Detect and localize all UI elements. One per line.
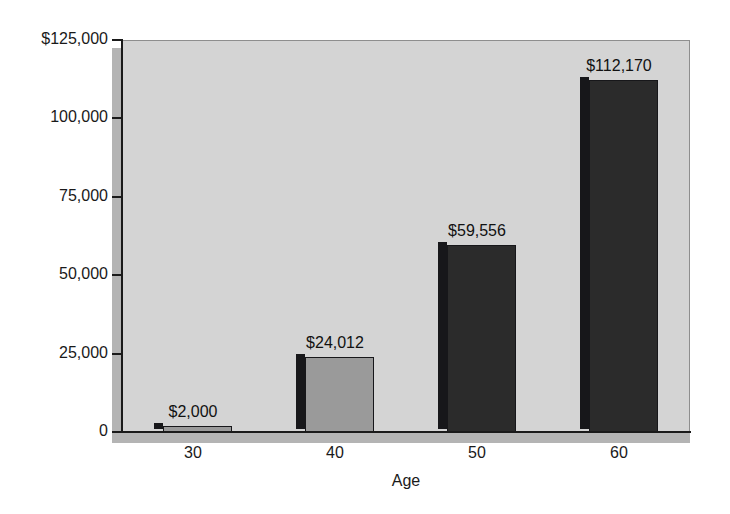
y-axis-tick-label: 25,000 [4, 344, 108, 362]
plot-bottom-shadow [112, 432, 690, 443]
y-axis-tick [112, 39, 123, 41]
bar-side-face [438, 242, 447, 429]
bar-side-face [296, 354, 305, 429]
bar-front-face [589, 80, 658, 432]
x-axis-line [121, 431, 691, 433]
bars-layer: $2,000$24,012$59,556$112,170 [122, 41, 689, 432]
y-axis-tick-label-wrap: 25,000 [0, 354, 108, 355]
x-axis-tick-label: 30 [158, 444, 228, 462]
y-axis-tick-label-wrap: 100,000 [0, 118, 108, 119]
y-axis-tick [112, 353, 123, 355]
y-axis-tick-label-wrap: 0 [0, 432, 108, 433]
y-axis-tick [112, 196, 123, 198]
x-axis-tick-label: 50 [442, 444, 512, 462]
y-axis-tick [112, 117, 123, 119]
y-axis-tick-label-wrap: $125,000 [0, 40, 108, 41]
bar-value-label: $112,170 [555, 57, 683, 75]
y-axis-tick-label: 75,000 [4, 187, 108, 205]
y-axis-tick-label: 100,000 [4, 108, 108, 126]
bar-value-label: $2,000 [129, 403, 257, 421]
x-axis-tick-label: 40 [300, 444, 370, 462]
bar-chart: $2,000$24,012$59,556$112,170 025,00050,0… [0, 0, 730, 514]
y-axis-tick-label: $125,000 [4, 30, 108, 48]
bar-value-label: $59,556 [413, 222, 541, 240]
plot-area: $2,000$24,012$59,556$112,170 [122, 40, 690, 432]
bar-40[interactable] [296, 353, 374, 432]
y-axis-tick [112, 431, 123, 433]
bar-60[interactable] [580, 76, 658, 432]
bar-front-face [447, 245, 516, 432]
bar-front-face [305, 357, 374, 432]
bar-side-face [154, 423, 163, 429]
y-axis-tick-label-wrap: 50,000 [0, 275, 108, 276]
x-axis-title: Age [122, 472, 690, 490]
bar-value-label: $24,012 [271, 334, 399, 352]
y-axis-tick-label: 50,000 [4, 265, 108, 283]
y-axis-tick [112, 274, 123, 276]
bar-side-face [580, 77, 589, 429]
y-axis-tick-label: 0 [4, 422, 108, 440]
y-axis-line [121, 40, 123, 433]
bar-50[interactable] [438, 241, 516, 432]
y-axis-tick-label-wrap: 75,000 [0, 197, 108, 198]
x-axis-tick-label: 60 [584, 444, 654, 462]
